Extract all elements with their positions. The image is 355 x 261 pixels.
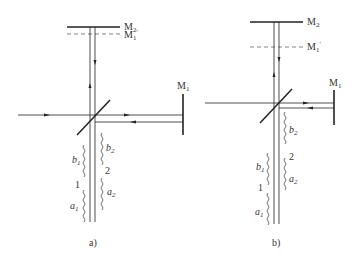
label-a1: a1: [255, 206, 264, 219]
label-train-1: 1: [258, 182, 263, 193]
michelson-interferometer-figure: M2 M1' M1 b1 1 a1 b2 2 a2 a): [0, 0, 355, 261]
panel-a: M2 M1' M1 b1 1 a1 b2 2 a2 a): [18, 21, 190, 249]
label-a2: a2: [107, 186, 116, 199]
label-train-1: 1: [75, 179, 80, 190]
wave-train-a1: [267, 193, 269, 225]
arrow-right-icon: [303, 102, 309, 105]
arrow-left-icon: [307, 107, 313, 110]
label-train-2: 2: [105, 165, 110, 176]
beam-splitter: [77, 100, 110, 135]
label-a2: a2: [289, 173, 298, 186]
label-m1-virtual: M1': [124, 28, 138, 42]
wave-train-a1: [83, 190, 85, 222]
wave-train-b2: [284, 112, 286, 144]
caption-a: a): [89, 237, 97, 249]
arrow-right-icon: [124, 114, 130, 117]
wave-train-a2: [101, 178, 103, 210]
label-train-2: 2: [289, 151, 294, 162]
label-m1: M1: [177, 80, 190, 93]
wave-train-b1: [83, 145, 85, 177]
label-a1: a1: [70, 200, 79, 213]
arrow-down-icon: [94, 60, 97, 65]
label-b2: b2: [106, 142, 115, 155]
label-m2: M2: [307, 16, 320, 29]
arrow-up-icon: [273, 72, 276, 77]
beam-splitter: [260, 89, 292, 123]
panel-b: M2 M1' M1 b2 2 a2 b1 1 a1 b): [205, 16, 342, 249]
label-b1: b1: [72, 154, 81, 167]
wave-train-a2: [284, 158, 286, 190]
label-m1: M1: [329, 77, 342, 90]
wave-train-b2: [101, 133, 103, 165]
arrow-down-icon: [278, 57, 281, 62]
label-m1-virtual: M1': [307, 40, 321, 54]
caption-b: b): [272, 237, 280, 249]
wave-train-b1: [267, 153, 269, 185]
label-b1: b1: [256, 161, 265, 174]
label-b2: b2: [289, 124, 298, 137]
arrow-right-icon: [44, 114, 50, 117]
arrow-up-icon: [89, 83, 92, 88]
arrow-left-icon: [130, 121, 136, 124]
